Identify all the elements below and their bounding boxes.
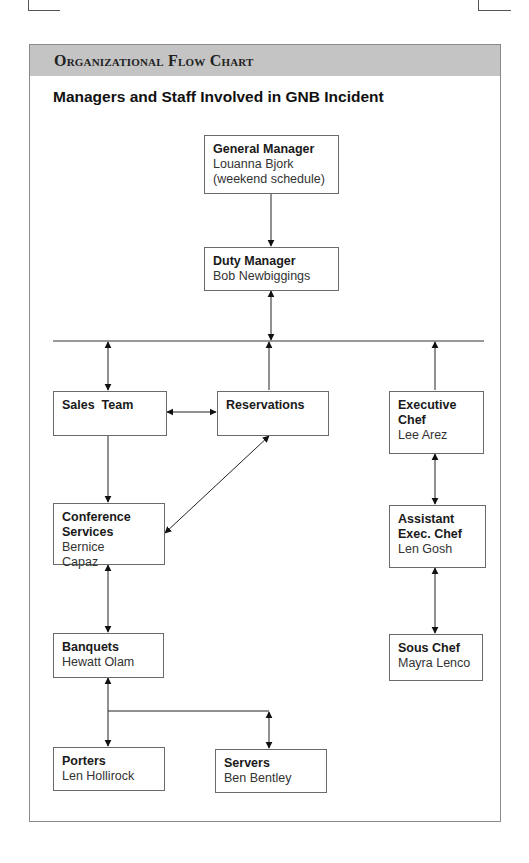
node-sous-chef: Sous Chef Mayra Lenco [389,634,483,681]
node-porters: Porters Len Hollirock [53,747,165,791]
node-reservations: Reservations [217,391,329,436]
node-banquets: Banquets Hewatt Olam [53,633,164,678]
node-servers: Servers Ben Bentley [215,749,327,793]
node-assistant-exec-chef: Assistant Exec. Chef Len Gosh [389,505,486,568]
node-general-manager: General Manager Louanna Bjork (weekend s… [204,135,339,194]
edge-res-conf [165,436,269,533]
node-conference-services: Conference Services Bernice Capaz [53,503,165,565]
node-executive-chef: Executive Chef Lee Arez [389,391,484,454]
node-sales-team: Sales Team [53,391,167,436]
node-duty-manager: Duty Manager Bob Newbiggings [204,247,339,291]
